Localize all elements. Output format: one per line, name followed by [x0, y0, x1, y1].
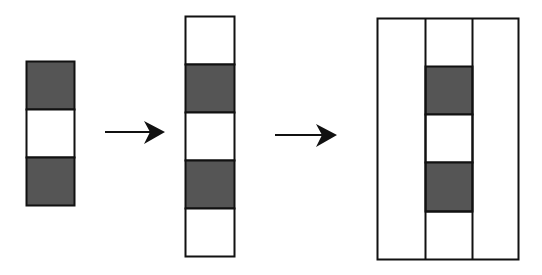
stage-1-cell-dark	[27, 62, 75, 110]
stage-1-cell-dark	[27, 158, 75, 206]
arrow-right-icon	[275, 124, 337, 147]
stage-3-cell-light	[426, 115, 473, 163]
stage-3-grid	[378, 19, 519, 260]
stage-2-cell-dark	[186, 65, 235, 113]
stage-3-cell-dark	[426, 163, 473, 212]
stage-1-strip	[27, 62, 75, 206]
arrow-right-icon	[105, 121, 165, 144]
stage-2-cell-light	[186, 209, 235, 257]
stage-3-cell-dark	[426, 67, 473, 115]
diagram-canvas	[0, 0, 542, 275]
stage-1-cell-light	[27, 110, 75, 158]
stage-2-cell-light	[186, 113, 235, 161]
stage-2-cell-dark	[186, 161, 235, 209]
stage-2-cell-light	[186, 17, 235, 65]
stage-2-strip	[186, 17, 235, 257]
